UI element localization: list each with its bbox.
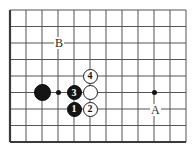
stone-white-4[interactable]: 4 — [83, 69, 98, 84]
goban-grid[interactable] — [0, 0, 196, 154]
stone-white-2[interactable]: 2 — [83, 102, 98, 117]
stone-black-1[interactable]: 1 — [67, 102, 82, 117]
stone-black-3[interactable]: 3 — [67, 85, 82, 100]
go-board-diagram: 3412 BA — [0, 0, 196, 154]
stone-label: 1 — [72, 104, 77, 114]
stone-label: 3 — [72, 88, 77, 98]
stone-label: 4 — [88, 71, 93, 81]
stone-black-plain[interactable] — [34, 84, 51, 101]
stone-white-plain[interactable] — [83, 85, 98, 100]
stone-label: 2 — [88, 104, 93, 114]
grid-lines — [10, 10, 186, 142]
